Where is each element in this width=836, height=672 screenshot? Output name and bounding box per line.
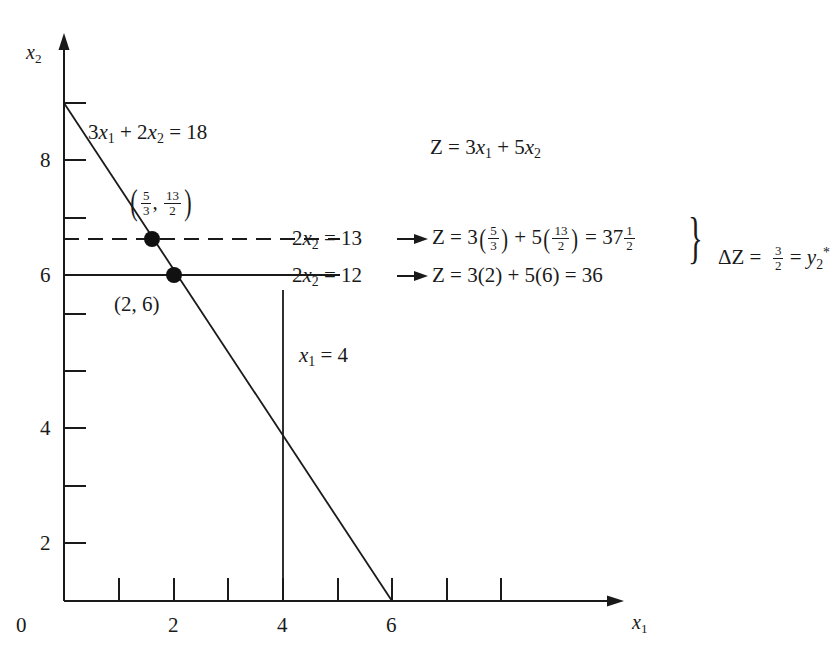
y-tick-label-8: 8 (40, 150, 51, 171)
delta-z-label: ΔZ = 32 = y2* (718, 245, 830, 274)
graph-canvas (0, 0, 836, 672)
y-axis-label-var: x (26, 41, 35, 63)
objective-z: Z (430, 135, 443, 159)
point-label-2-6: (2, 6) (114, 294, 160, 315)
point-label-comma: , (152, 190, 157, 214)
objective-var2-sub: 2 (534, 146, 541, 161)
row2-lhs-value: 12 (341, 263, 362, 287)
x-axis-ticks (119, 578, 501, 601)
marker-point-2-6 (166, 267, 182, 283)
row1-fraction-5-3-numerator: 5 (488, 224, 499, 238)
objective-coef2: 5 (514, 135, 525, 159)
row1-term2-coef: 5 (531, 225, 542, 249)
constraint-var2: x (148, 120, 157, 144)
vline-equals: = (321, 343, 333, 367)
objective-var1-sub: 1 (485, 146, 492, 161)
vline-value: 4 (338, 343, 349, 367)
dual-variable-star: * (823, 245, 830, 260)
row1-result: 3712 (602, 225, 636, 254)
x-axis-label: x1 (632, 612, 647, 632)
x-axis-arrow-icon (607, 596, 624, 607)
paren-open: ( (130, 185, 137, 221)
y-axis-arrow-icon (59, 33, 70, 50)
row2-term1: 3(2) (467, 263, 502, 287)
fraction-13-2-denominator: 2 (164, 203, 181, 218)
x-tick-label-2: 2 (168, 615, 179, 636)
row2-lhs-sub: 2 (312, 274, 319, 289)
marker-point-5-3-13-2 (144, 231, 160, 247)
row1-result-integer: 37 (602, 225, 623, 249)
row1-z-equals: = (450, 225, 462, 249)
row2-term2: 5(6) (525, 263, 560, 287)
x-axis-label-var: x (632, 611, 641, 633)
row1-fraction-5-3-denominator: 3 (488, 238, 499, 253)
row1-lhs-equals: = (324, 226, 336, 250)
delta-z-equals: = (750, 245, 762, 269)
y-axis-label-sub: 2 (35, 51, 42, 66)
row1-term2-paren-close: ) (572, 225, 579, 253)
paren-close: ) (184, 185, 191, 221)
row1-result-fraction-numerator: 1 (624, 224, 635, 238)
constraint-var1-sub: 1 (108, 131, 115, 146)
row2-lhs-coef: 2 (292, 263, 303, 287)
y-tick-label-2: 2 (40, 533, 51, 554)
delta-z-symbol: ΔZ (718, 245, 744, 269)
row2-lhs-var: x (303, 263, 312, 287)
linear-programming-graph: x2 x1 8 6 4 2 0 2 4 6 3x1 + 2x2 = 18 Z =… (0, 0, 836, 672)
objective-equals: = (448, 135, 460, 159)
row2-lhs-equals: = (324, 263, 336, 287)
delta-z-fraction-numerator: 3 (773, 244, 784, 258)
row1-fraction-13-2: 132 (552, 224, 569, 253)
delta-z-equals-2: = (790, 245, 802, 269)
constraint-var1: x (99, 120, 108, 144)
objective-function-label: Z = 3x1 + 5x2 (430, 137, 541, 158)
point-label-5-3-13-2: (53, 132) (128, 186, 194, 222)
row1-result-fraction-denominator: 2 (624, 238, 635, 253)
constraint-coef1: 3 (88, 120, 99, 144)
x-axis-label-sub: 1 (641, 621, 648, 636)
objective-var1: x (476, 135, 485, 159)
row1-lhs-coef: 2 (292, 226, 303, 250)
y-tick-label-6: 6 (40, 265, 51, 286)
row1-result-fraction: 12 (624, 224, 635, 253)
row1-lhs-sub: 2 (312, 237, 319, 252)
row1-term1-paren-close: ) (501, 225, 508, 253)
objective-plus: + (497, 135, 509, 159)
implication-arrow-row2-icon (397, 271, 428, 281)
row2-rhs-label: Z = 3(2) + 5(6) = 36 (432, 265, 603, 286)
constraint-var2-sub: 2 (157, 131, 164, 146)
row1-fraction-13-2-numerator: 13 (552, 224, 569, 238)
constraint-line-label: 3x1 + 2x2 = 18 (88, 122, 207, 143)
constraint-coef2: 2 (137, 120, 148, 144)
row2-result-equals: = (565, 263, 577, 287)
row1-result-equals: = (585, 225, 597, 249)
dual-variable: y (807, 245, 816, 269)
row1-lhs-value: 13 (341, 226, 362, 250)
row1-z: Z (432, 225, 445, 249)
fraction-5-3: 53 (141, 189, 152, 218)
row2-result: 36 (582, 263, 603, 287)
constraint-equals: = (169, 120, 181, 144)
row1-fraction-13-2-denominator: 2 (552, 238, 569, 253)
x-tick-label-4: 4 (277, 615, 288, 636)
row1-lhs-var: x (303, 226, 312, 250)
objective-coef1: 3 (465, 135, 476, 159)
row1-term2-paren-open: ( (543, 225, 550, 253)
fraction-5-3-numerator: 5 (141, 189, 152, 203)
objective-var2: x (525, 135, 534, 159)
row1-rhs-label: Z = 3(53) + 5(132) = 3712 (432, 225, 636, 254)
constraint-plus: + (120, 120, 132, 144)
grouping-brace: } (688, 206, 703, 270)
delta-z-fraction-denominator: 2 (773, 258, 784, 273)
row1-term1-paren-open: ( (479, 225, 486, 253)
constraint-rhs: 18 (186, 120, 207, 144)
y-axis-ticks (64, 103, 86, 543)
fraction-13-2-numerator: 13 (164, 189, 181, 203)
x-tick-label-0: 0 (16, 615, 27, 636)
y-axis-label: x2 (26, 42, 41, 62)
row1-fraction-5-3: 53 (488, 224, 499, 253)
row2-z-equals: = (450, 263, 462, 287)
vertical-line-label-x1-4: x1 = 4 (299, 345, 348, 366)
row1-plus: + (514, 225, 526, 249)
row2-plus: + (507, 263, 519, 287)
